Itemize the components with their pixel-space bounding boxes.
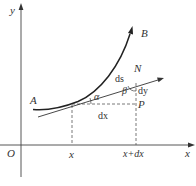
x-tick-label: x xyxy=(69,149,74,160)
origin-label: O xyxy=(7,148,15,159)
x-axis xyxy=(0,143,195,148)
tangent-arrow-icon xyxy=(157,78,164,83)
dy-label: dy xyxy=(138,86,148,96)
y-axis-arrow-icon xyxy=(19,3,24,10)
point-N-label: N xyxy=(134,63,141,74)
ds-label: ds xyxy=(115,74,124,84)
point-A-label: A xyxy=(30,95,37,106)
curve-arrow-icon xyxy=(128,26,133,35)
beta-angle-label: β xyxy=(122,86,127,96)
point-B-label: B xyxy=(141,28,148,39)
x-axis-label: x xyxy=(185,148,190,159)
point-P-label: P xyxy=(138,99,145,110)
y-axis xyxy=(19,3,24,177)
alpha-angle-label: α xyxy=(94,92,99,102)
x-plus-dx-tick-label: x+dx xyxy=(123,149,144,159)
y-axis-label: y xyxy=(10,5,15,16)
curve-AB xyxy=(33,26,133,110)
dx-label: dx xyxy=(98,111,108,121)
